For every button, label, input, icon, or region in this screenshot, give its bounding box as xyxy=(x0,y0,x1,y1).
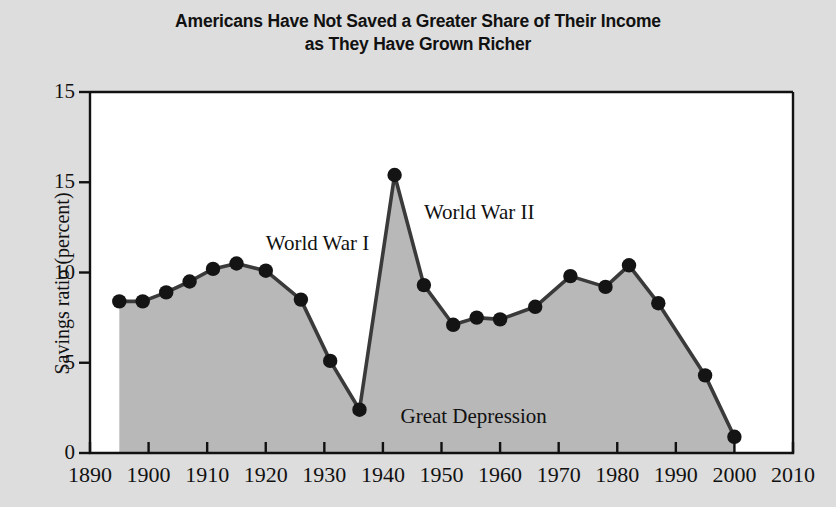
data-point-marker xyxy=(136,294,150,308)
data-point-marker xyxy=(294,292,308,306)
data-point-marker xyxy=(206,262,220,276)
data-point-marker xyxy=(112,294,126,308)
data-point-marker xyxy=(727,430,741,444)
data-point-marker xyxy=(323,354,337,368)
chart-annotation: World War I xyxy=(266,233,370,254)
data-point-marker xyxy=(417,278,431,292)
data-point-marker xyxy=(698,368,712,382)
y-axis-tick-label: 5 xyxy=(29,352,75,373)
data-point-marker xyxy=(622,258,636,272)
y-axis-tick-label: 15 xyxy=(29,81,75,102)
data-point-marker xyxy=(446,318,460,332)
data-point-marker xyxy=(598,280,612,294)
chart-figure: Americans Have Not Saved a Greater Share… xyxy=(0,0,836,507)
data-point-marker xyxy=(352,403,366,417)
data-point-marker xyxy=(470,310,484,324)
data-point-marker xyxy=(387,168,401,182)
chart-annotation: Great Depression xyxy=(400,406,546,427)
data-point-marker xyxy=(229,256,243,270)
y-axis-tick-label: 0 xyxy=(29,442,75,463)
data-point-marker xyxy=(259,264,273,278)
data-point-marker xyxy=(159,285,173,299)
data-point-marker xyxy=(182,274,196,288)
chart-annotation: World War II xyxy=(424,202,535,223)
y-axis-tick-label: 10 xyxy=(29,262,75,283)
data-point-marker xyxy=(651,296,665,310)
data-point-marker xyxy=(563,269,577,283)
y-axis-tick-label: 15 xyxy=(29,171,75,192)
x-axis-tick-label: 2010 xyxy=(758,464,828,486)
data-point-marker xyxy=(528,300,542,314)
data-point-marker xyxy=(493,312,507,326)
plot-area xyxy=(0,0,836,507)
